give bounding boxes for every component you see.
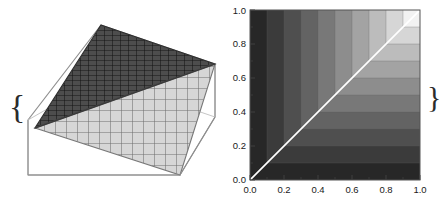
x-tick-label: 1.0 <box>413 184 426 195</box>
density-plot-panel: 0.0 0.2 0.4 0.6 0.8 1.0 0.0 0.2 0.4 0.6 … <box>221 0 443 212</box>
y-tick-label: 0.4 <box>233 106 246 117</box>
y-tick-label: 0.8 <box>233 38 246 49</box>
surface-plot-svg: { <box>0 0 222 212</box>
x-tick-label: 0.0 <box>243 184 256 195</box>
y-tick-label: 0.2 <box>233 140 246 151</box>
y-tick-label: 0.6 <box>233 72 246 83</box>
x-tick-label: 0.4 <box>311 184 324 195</box>
x-tick-label: 0.2 <box>277 184 290 195</box>
y-tick-label: 1.0 <box>233 5 246 16</box>
density-plot-svg: 0.0 0.2 0.4 0.6 0.8 1.0 0.0 0.2 0.4 0.6 … <box>221 0 443 212</box>
left-brace-annotation: { <box>9 88 25 125</box>
y-axis-tick-labels: 0.0 0.2 0.4 0.6 0.8 1.0 <box>233 5 246 185</box>
density-plot-area <box>250 10 420 180</box>
y-tick-label: 0.0 <box>233 174 246 185</box>
x-tick-label: 0.8 <box>379 184 392 195</box>
surface-plot-panel: { <box>0 0 222 212</box>
x-axis-tick-labels: 0.0 0.2 0.4 0.6 0.8 1.0 <box>243 184 426 195</box>
x-tick-label: 0.6 <box>345 184 358 195</box>
right-brace-annotation: } <box>427 80 441 113</box>
figure-container: { <box>0 0 443 212</box>
